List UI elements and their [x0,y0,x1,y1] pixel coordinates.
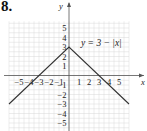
svg-text:5: 5 [62,23,66,33]
svg-text:−2: −2 [57,90,66,100]
graph: −5−4−3−2−112345−5−4−3−2−112345 y = 3 − |… [0,0,147,131]
svg-text:1: 1 [62,61,66,71]
svg-text:2: 2 [87,77,91,87]
svg-text:1: 1 [77,77,81,87]
svg-text:−5: −5 [57,118,66,128]
svg-text:−4: −4 [57,109,67,119]
svg-text:−5: −5 [14,77,23,87]
svg-text:−3: −3 [57,99,66,109]
svg-text:−1: −1 [57,80,66,90]
svg-text:−2: −2 [44,77,53,87]
svg-text:3: 3 [97,77,101,87]
equation-label: y = 3 − |x| [80,38,122,48]
y-axis-label: y [58,1,63,11]
x-axis-label: x [140,77,145,87]
svg-text:5: 5 [117,77,121,87]
